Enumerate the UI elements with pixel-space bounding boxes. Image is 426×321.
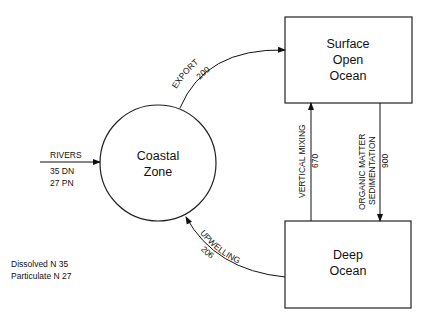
surface-ocean-label-line1: Surface — [326, 37, 369, 51]
surface-ocean-node: Surface Open Ocean — [285, 17, 412, 103]
legend-particulate: Particulate N 27 — [11, 271, 72, 281]
deep-ocean-label-line1: Deep — [333, 248, 363, 262]
vertical-mixing-label: VERTICAL MIXING — [297, 124, 307, 198]
coastal-zone-label-line2: Zone — [144, 165, 173, 179]
export-flow: EXPORT 200 — [170, 50, 285, 108]
legend-dissolved: Dissolved N 35 — [11, 259, 68, 269]
deep-ocean-node: Deep Ocean — [285, 221, 411, 308]
sedimentation-label-line2: SEDIMENTATION — [367, 136, 377, 205]
upwelling-arrow — [186, 217, 285, 277]
rivers-label: RIVERS — [50, 150, 82, 160]
surface-ocean-label-line2: Open — [333, 53, 364, 67]
upwelling-flow: UPWELLING 206 — [186, 217, 285, 277]
vertical-mixing-value: 670 — [310, 154, 320, 168]
vertical-mixing-flow: VERTICAL MIXING 670 — [297, 103, 320, 221]
deep-ocean-label-line2: Ocean — [330, 264, 367, 278]
rivers-pn-value: 27 PN — [50, 178, 74, 188]
rivers-dn-value: 35 DN — [50, 166, 74, 176]
legend: Dissolved N 35 Particulate N 27 — [11, 259, 72, 281]
surface-ocean-label-line3: Ocean — [330, 69, 367, 83]
sedimentation-flow: ORGANIC MATTER SEDIMENTATION 900 — [357, 103, 390, 221]
coastal-zone-node: Coastal Zone — [100, 105, 216, 221]
rivers-flow: RIVERS 35 DN 27 PN — [40, 150, 100, 188]
coastal-zone-label-line1: Coastal — [137, 149, 179, 163]
export-arrow — [180, 50, 285, 108]
nitrogen-flux-diagram: Coastal Zone Surface Open Ocean Deep Oce… — [0, 0, 426, 321]
sedimentation-value: 900 — [380, 154, 390, 168]
sedimentation-label-line1: ORGANIC MATTER — [357, 134, 367, 210]
